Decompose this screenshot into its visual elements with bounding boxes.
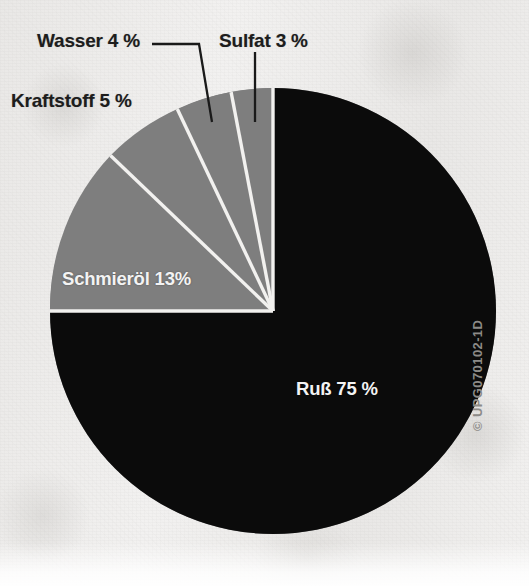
credit-text: © UPG070102-1D [470, 271, 485, 431]
pie-label-schmieroel: Schmieröl 13% [62, 268, 191, 290]
pie-chart-figure: Wasser 4 % Sulfat 3 % Kraftstoff 5 % Sch… [0, 0, 529, 586]
pie-slice-russ-lower-left [50, 311, 273, 534]
pie-label-kraftstoff: Kraftstoff 5 % [11, 90, 132, 112]
pie-label-wasser: Wasser 4 % [37, 30, 140, 52]
pie-label-sulfat: Sulfat 3 % [219, 30, 308, 52]
pie-chart-graphic [0, 0, 529, 586]
pie-label-russ: Ruß 75 % [296, 378, 378, 400]
pie-slice-russ [273, 88, 496, 534]
